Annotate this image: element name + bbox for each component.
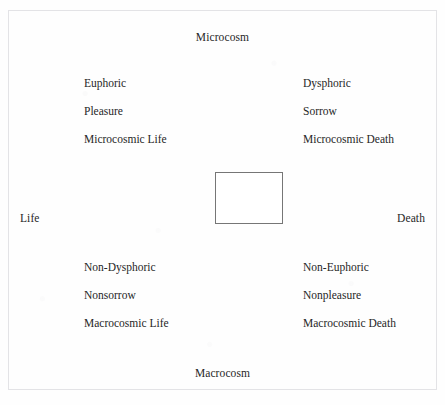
quadrant-top-right: Dysphoric Sorrow Microcosmic Death bbox=[303, 76, 445, 146]
quadrant-term: Non-Euphoric bbox=[303, 260, 445, 274]
quadrant-term: Microcosmic Life bbox=[84, 132, 234, 146]
axis-label-bottom: Macrocosm bbox=[0, 366, 445, 380]
figure-page: Microcosm Macrocosm Life Death Euphoric … bbox=[0, 0, 445, 405]
quadrant-term: Microcosmic Death bbox=[303, 132, 445, 146]
quadrant-term: Sorrow bbox=[303, 104, 445, 118]
quadrant-top-left: Euphoric Pleasure Microcosmic Life bbox=[84, 76, 234, 146]
quadrant-term: Nonpleasure bbox=[303, 288, 445, 302]
quadrant-bottom-left: Non-Dysphoric Nonsorrow Macrocosmic Life bbox=[84, 260, 234, 330]
center-empty-box bbox=[215, 172, 283, 224]
quadrant-term: Nonsorrow bbox=[84, 288, 234, 302]
quadrant-term: Macrocosmic Death bbox=[303, 316, 445, 330]
quadrant-term: Pleasure bbox=[84, 104, 234, 118]
quadrant-term: Dysphoric bbox=[303, 76, 445, 90]
axis-label-top: Microcosm bbox=[0, 30, 445, 44]
axis-label-right: Death bbox=[397, 211, 425, 225]
quadrant-term: Macrocosmic Life bbox=[84, 316, 234, 330]
quadrant-bottom-right: Non-Euphoric Nonpleasure Macrocosmic Dea… bbox=[303, 260, 445, 330]
quadrant-term: Non-Dysphoric bbox=[84, 260, 234, 274]
axis-label-left: Life bbox=[20, 211, 40, 225]
quadrant-term: Euphoric bbox=[84, 76, 234, 90]
